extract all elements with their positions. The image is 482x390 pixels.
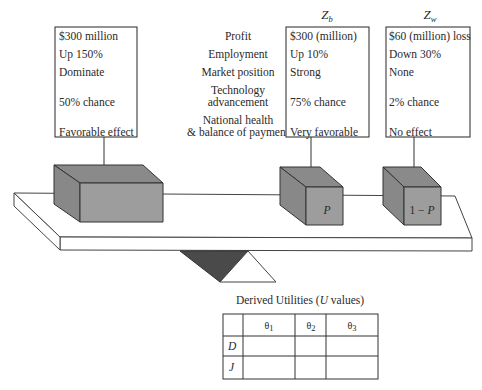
zw-employment: Down 30% xyxy=(389,48,441,60)
attr-national-line2: & balance of payment xyxy=(187,126,290,139)
table-title: Derived Utilities (U values) xyxy=(236,294,364,307)
left-technology: 50% chance xyxy=(59,96,115,108)
zw-outcome-box: $60 (million) loss Down 30% None 2% chan… xyxy=(386,27,471,138)
col-header-theta1: θ1 xyxy=(264,320,273,333)
zw-technology: 2% chance xyxy=(389,96,439,108)
attr-technology-line2: advancement xyxy=(208,96,269,108)
zb-national: Very favorable xyxy=(290,126,358,139)
zb-employment: Up 10% xyxy=(290,48,328,61)
left-outcome-box: $300 million Up 150% Dominate 50% chance… xyxy=(55,27,137,138)
zw-profit: $60 (million) loss xyxy=(389,30,471,43)
attr-market-position: Market position xyxy=(201,66,274,79)
zb-outcome-box: $300 (million) Up 10% Strong 75% chance … xyxy=(286,27,369,139)
zw-national: No effect xyxy=(389,126,433,138)
fulcrum xyxy=(180,251,276,282)
balance-scale-diagram: Zb Zw $300 million Up 150% Dominate 50% … xyxy=(0,0,482,390)
left-weight-block xyxy=(54,165,163,222)
col-header-theta2: θ2 xyxy=(306,320,315,333)
left-market-position: Dominate xyxy=(59,66,104,78)
zw-market-position: None xyxy=(389,66,414,78)
zb-market-position: Strong xyxy=(290,66,321,79)
zw-header: Zw xyxy=(424,7,437,24)
zb-technology: 75% chance xyxy=(290,96,346,108)
zb-header: Zb xyxy=(321,7,332,24)
left-profit: $300 million xyxy=(59,30,118,42)
attribute-labels: Profit Employment Market position Techno… xyxy=(187,30,290,139)
attr-profit: Profit xyxy=(225,30,252,42)
attr-national-line1: National health xyxy=(203,114,274,126)
derived-utilities-table: θ1 θ2 θ3 D J xyxy=(223,314,378,379)
zb-profit: $300 (million) xyxy=(290,30,357,43)
left-national: Favorable effect xyxy=(59,126,135,138)
attr-employment: Employment xyxy=(208,48,268,61)
p-label: P xyxy=(322,204,330,216)
left-employment: Up 150% xyxy=(59,48,103,61)
row-label-d: D xyxy=(227,340,237,352)
row-label-j: J xyxy=(229,361,235,373)
col-header-theta3: θ3 xyxy=(347,320,356,333)
one-minus-p-label: 1 − P xyxy=(409,204,434,216)
